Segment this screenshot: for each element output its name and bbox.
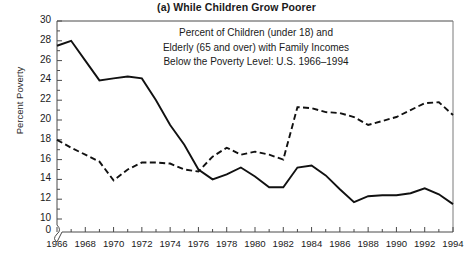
- y-tick-label: 28: [25, 34, 51, 45]
- series-line-1: [57, 41, 453, 204]
- y-tick-label-zero: 0: [25, 224, 51, 235]
- y-tick-label: 24: [25, 73, 51, 84]
- plot-area: [0, 0, 473, 256]
- y-tick-label: 20: [25, 113, 51, 124]
- y-tick-label: 10: [25, 212, 51, 223]
- y-tick-label: 18: [25, 133, 51, 144]
- chart-figure: (a) While Children Grow Poorer Percent P…: [0, 0, 473, 256]
- y-tick-label: 22: [25, 93, 51, 104]
- y-tick-label: 16: [25, 153, 51, 164]
- x-tick-label: 1994: [436, 238, 470, 249]
- series-line-2: [57, 102, 453, 180]
- y-tick-label: 12: [25, 192, 51, 203]
- y-tick-label: 26: [25, 54, 51, 65]
- y-tick-label: 30: [25, 14, 51, 25]
- y-tick-label: 14: [25, 172, 51, 183]
